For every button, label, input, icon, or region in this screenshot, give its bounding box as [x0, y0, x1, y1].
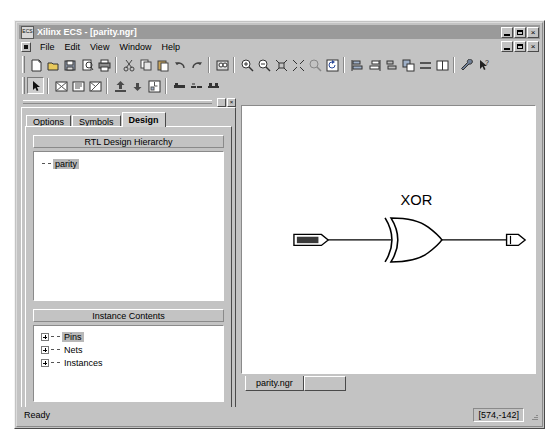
- toolbar-separator: [106, 78, 108, 94]
- mdi-system-menu-button[interactable]: [21, 42, 31, 52]
- align-right-icon[interactable]: [365, 56, 382, 73]
- distribute-icon[interactable]: [416, 56, 433, 73]
- design-tab-page: RTL Design Hierarchy parity Instance Con…: [25, 126, 232, 411]
- panel-tabstrip: Options Symbols Design: [26, 112, 167, 127]
- document-area: XOR parity.ngr: [239, 97, 538, 394]
- tree-connector-icon: [51, 362, 60, 364]
- toolbar-separator: [47, 78, 49, 94]
- input-port-symbol: [294, 234, 328, 245]
- svg-text:?: ?: [485, 59, 489, 66]
- zoom-in-icon[interactable]: [238, 56, 255, 73]
- symbol-wizard-icon[interactable]: [69, 77, 86, 94]
- tree-item-parity[interactable]: parity: [40, 158, 223, 169]
- paste-icon[interactable]: [154, 56, 171, 73]
- open-icon[interactable]: [44, 56, 61, 73]
- design-panel: × Options Symbols Design RTL Design Hier…: [21, 97, 236, 415]
- cut-icon[interactable]: [120, 56, 137, 73]
- tab-design[interactable]: Design: [122, 112, 166, 127]
- panel-pin-button[interactable]: [217, 98, 226, 107]
- pop-out-icon[interactable]: [128, 77, 145, 94]
- toolbar-area: ?: [19, 54, 540, 96]
- zoom-full-icon[interactable]: [272, 56, 289, 73]
- find-icon[interactable]: [213, 56, 230, 73]
- ecs-icon: ECS: [21, 26, 34, 39]
- add-bus-icon[interactable]: [187, 77, 204, 94]
- maximize-button[interactable]: [514, 27, 526, 38]
- status-bar: Ready [574,-142]: [20, 407, 539, 423]
- rtl-hierarchy-tree[interactable]: parity: [33, 151, 224, 301]
- schematic-canvas[interactable]: XOR: [241, 105, 536, 374]
- mdi-window-controls: ×: [501, 41, 540, 52]
- window-controls: ×: [501, 27, 540, 38]
- tree-item-label: Pins: [62, 332, 84, 342]
- add-wire-icon[interactable]: [170, 77, 187, 94]
- rtl-hierarchy-title: RTL Design Hierarchy: [33, 135, 224, 148]
- print-icon[interactable]: [95, 56, 112, 73]
- menu-help[interactable]: Help: [156, 41, 185, 53]
- select-arrow-icon[interactable]: [27, 77, 44, 94]
- document-tabstrip: parity.ngr: [245, 376, 346, 392]
- gate-label: XOR: [401, 193, 433, 208]
- tree-connector-icon: [42, 163, 51, 165]
- resize-grip[interactable]: [527, 409, 539, 421]
- zoom-selection-icon[interactable]: [289, 56, 306, 73]
- options-wrench-icon[interactable]: [458, 56, 475, 73]
- tree-item-instances[interactable]: Instances: [41, 357, 223, 368]
- expand-plus-icon[interactable]: [41, 346, 49, 354]
- align-left-icon[interactable]: [348, 56, 365, 73]
- new-icon[interactable]: [27, 56, 44, 73]
- schematic-drawing: XOR: [242, 106, 535, 373]
- output-port-symbol: [507, 234, 526, 245]
- close-button[interactable]: ×: [527, 27, 539, 38]
- menu-view[interactable]: View: [85, 41, 114, 53]
- title-bar: ECS Xilinx ECS - [parity.ngr] ×: [19, 25, 540, 39]
- mdi-restore-button[interactable]: [514, 41, 526, 52]
- tree-item-pins[interactable]: Pins: [41, 331, 223, 342]
- hierarchy-icon[interactable]: [145, 77, 162, 94]
- push-into-icon[interactable]: [111, 77, 128, 94]
- add-bus-tap-icon[interactable]: [204, 77, 221, 94]
- menu-window[interactable]: Window: [114, 41, 156, 53]
- bring-front-icon[interactable]: [399, 56, 416, 73]
- undo-icon[interactable]: [171, 56, 188, 73]
- copy-icon[interactable]: [137, 56, 154, 73]
- application-window: ECS Xilinx ECS - [parity.ngr] × File Edi…: [14, 20, 545, 429]
- align-middle-icon[interactable]: [382, 56, 399, 73]
- save-icon[interactable]: [61, 56, 78, 73]
- document-tabstrip-filler: [304, 376, 346, 391]
- panel-close-button[interactable]: ×: [227, 98, 236, 107]
- toolbar-separator: [165, 78, 167, 94]
- refresh-icon[interactable]: [323, 56, 340, 73]
- zoom-area-icon[interactable]: [306, 56, 323, 73]
- expand-plus-icon[interactable]: [41, 359, 49, 367]
- zoom-out-icon[interactable]: [255, 56, 272, 73]
- redo-icon[interactable]: [188, 56, 205, 73]
- minimize-button[interactable]: [501, 27, 513, 38]
- menu-edit[interactable]: Edit: [60, 41, 86, 53]
- status-message: Ready: [20, 410, 473, 420]
- help-pointer-icon[interactable]: ?: [475, 56, 492, 73]
- application-window-inner: ECS Xilinx ECS - [parity.ngr] × File Edi…: [16, 22, 543, 427]
- tree-item-label: Instances: [62, 358, 105, 368]
- edit-symbol-icon[interactable]: [86, 77, 103, 94]
- standard-toolbar: ?: [19, 54, 540, 75]
- instance-contents-tree[interactable]: Pins Nets Instances: [33, 325, 224, 402]
- mdi-close-button[interactable]: ×: [527, 41, 539, 52]
- mdi-minimize-button[interactable]: [501, 41, 513, 52]
- menu-file[interactable]: File: [35, 41, 60, 53]
- tree-connector-icon: [51, 349, 60, 351]
- panel-body: Options Symbols Design RTL Design Hierar…: [21, 107, 236, 415]
- panel-caption: ×: [21, 97, 236, 107]
- columns-icon[interactable]: [433, 56, 450, 73]
- tree-item-nets[interactable]: Nets: [41, 344, 223, 355]
- document-tab-parity[interactable]: parity.ngr: [245, 376, 304, 391]
- print-preview-icon[interactable]: [78, 56, 95, 73]
- tree-connector-icon: [51, 336, 60, 338]
- add-symbol-icon[interactable]: [52, 77, 69, 94]
- toolbar-separator: [233, 57, 235, 73]
- expand-plus-icon[interactable]: [41, 333, 49, 341]
- panel-grip[interactable]: [23, 100, 212, 104]
- toolbar-grip[interactable]: [22, 56, 25, 73]
- toolbar-grip[interactable]: [22, 77, 25, 94]
- toolbar-separator: [208, 57, 210, 73]
